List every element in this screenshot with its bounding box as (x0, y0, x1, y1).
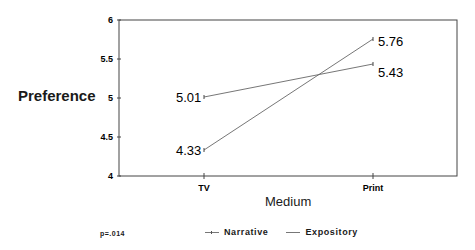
y-tick-labels: 6 5.5 5 4.5 4 (100, 15, 113, 181)
y-axis-title: Preference (18, 87, 96, 104)
svg-text:5: 5 (108, 93, 113, 103)
line-chart: 6 5.5 5 4.5 4 TV Print 5.01 4.33 5.76 5.… (0, 0, 475, 250)
legend-label-narrative: Narrative (224, 227, 268, 237)
label-print-expository: 5.76 (378, 34, 403, 49)
svg-text:Print: Print (363, 183, 384, 193)
x-tick-labels: TV Print (198, 183, 383, 193)
p-value-annotation: p=.014 (100, 230, 125, 237)
series-narrative-line (204, 64, 373, 97)
legend-item-narrative: Narrative (205, 227, 268, 237)
x-axis-title: Medium (265, 194, 311, 209)
narrative-line-icon (205, 232, 219, 233)
label-tv-expository: 4.33 (176, 143, 201, 158)
svg-text:6: 6 (108, 15, 113, 25)
svg-text:5.5: 5.5 (100, 54, 113, 64)
legend: Narrative Expository (205, 227, 376, 237)
svg-text:TV: TV (198, 183, 210, 193)
legend-item-expository: Expository (286, 227, 358, 237)
label-print-narrative: 5.43 (378, 65, 403, 80)
svg-text:4.5: 4.5 (100, 132, 113, 142)
series-expository-line (204, 39, 373, 150)
svg-text:4: 4 (108, 171, 113, 181)
expository-line-icon (286, 232, 300, 233)
plot-frame (119, 20, 457, 176)
label-tv-narrative: 5.01 (176, 90, 201, 105)
legend-label-expository: Expository (305, 227, 358, 237)
